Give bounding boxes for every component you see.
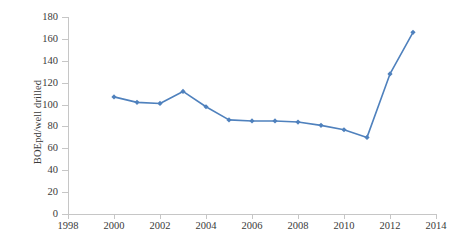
data-point-marker — [249, 118, 254, 123]
data-point-marker — [111, 94, 116, 99]
data-point-marker — [364, 135, 369, 140]
data-point-marker — [318, 123, 323, 128]
series-plot — [0, 0, 463, 244]
data-point-marker — [272, 118, 277, 123]
data-point-marker — [295, 119, 300, 124]
series-line — [114, 32, 413, 137]
line-chart: BOEpd/well drilled 020406080100120140160… — [0, 0, 463, 244]
series-markers — [111, 30, 415, 140]
data-point-marker — [341, 127, 346, 132]
data-point-marker — [134, 100, 139, 105]
